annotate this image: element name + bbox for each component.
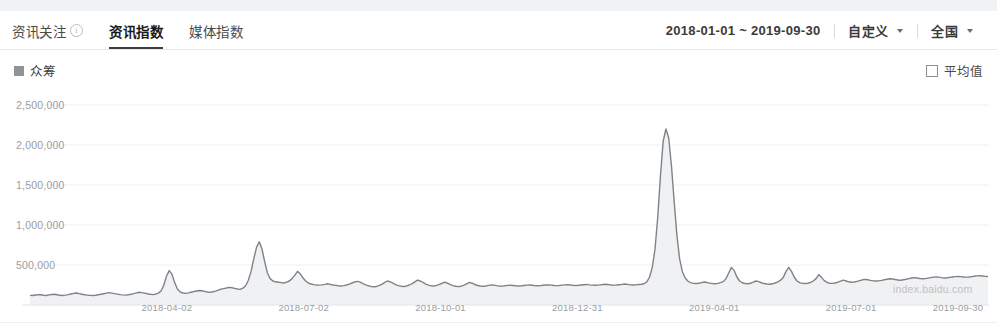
divider — [834, 24, 835, 38]
average-value-label: 平均值 — [944, 61, 983, 80]
tab-media-index[interactable]: 媒体指数 — [189, 11, 257, 50]
legend-swatch-icon — [14, 66, 24, 76]
checkbox-icon[interactable] — [926, 65, 938, 77]
tab-news-attention[interactable]: 资讯关注 i — [12, 11, 97, 50]
news-index-panel: 资讯关注 i 资讯指数 媒体指数 2018-01-01 ~ 2019-09-30… — [0, 0, 997, 331]
date-range-display[interactable]: 2018-01-01 ~ 2019-09-30 — [666, 23, 835, 38]
tab-bar: 资讯关注 i 资讯指数 媒体指数 — [12, 11, 269, 50]
panel-header: 资讯关注 i 资讯指数 媒体指数 2018-01-01 ~ 2019-09-30… — [0, 11, 997, 50]
series-line — [30, 129, 988, 296]
region-label: 全国 — [931, 21, 958, 40]
tab-news-index[interactable]: 资讯指数 — [109, 11, 177, 50]
header-divider — [0, 49, 997, 50]
chevron-down-icon — [967, 29, 973, 33]
legend-row: 众筹 平均值 — [0, 58, 997, 84]
range-preset-label: 自定义 — [848, 21, 888, 40]
chart-canvas — [0, 88, 997, 313]
tab-label: 资讯指数 — [109, 21, 163, 41]
average-value-toggle[interactable]: 平均值 — [926, 61, 983, 80]
info-circle-icon[interactable]: i — [70, 24, 83, 37]
region-dropdown[interactable]: 全国 — [931, 21, 987, 40]
header-controls: 2018-01-01 ~ 2019-09-30 自定义 全国 — [666, 11, 987, 50]
tab-label: 媒体指数 — [189, 21, 243, 41]
legend-label: 众筹 — [30, 61, 56, 80]
tab-label: 资讯关注 — [12, 21, 66, 41]
panel-top-strip — [0, 0, 997, 11]
range-preset-dropdown[interactable]: 自定义 — [848, 21, 917, 40]
legend-series-zhongchou[interactable]: 众筹 — [14, 61, 56, 80]
divider — [917, 24, 918, 38]
chevron-down-icon — [897, 29, 903, 33]
index-trend-chart[interactable]: 2,500,0002,000,0001,500,0001,000,000500,… — [0, 88, 997, 313]
bottom-divider — [0, 322, 997, 323]
